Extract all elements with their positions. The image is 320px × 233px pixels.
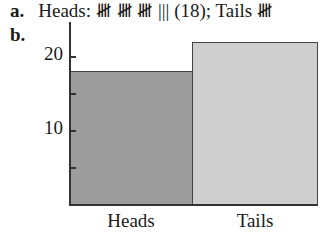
part-b-label: b. (10, 24, 25, 46)
y-tick-5 (70, 167, 76, 169)
y-tick-10 (70, 130, 76, 132)
bar-heads (69, 71, 194, 206)
heads-count: (18); Tails (169, 0, 257, 21)
y-tick-label-20: 20 (33, 43, 63, 65)
tails-tally: 𝍸 (257, 0, 273, 21)
heads-text: Heads: (38, 0, 96, 21)
y-tick-label-10: 10 (33, 117, 63, 139)
bar-tails (192, 42, 318, 206)
y-tick-15 (70, 93, 76, 95)
y-axis (69, 22, 71, 205)
part-a-label: a. (10, 0, 24, 21)
x-label-tails: Tails (220, 210, 290, 232)
part-a-line: a.Heads: 𝍸 𝍸 𝍸 ||| (18); Tails 𝍸 (10, 0, 273, 29)
x-label-heads: Heads (96, 210, 166, 232)
x-axis (69, 204, 318, 206)
y-tick-20 (70, 56, 76, 58)
heads-tally: 𝍸 𝍸 𝍸 ||| (96, 0, 170, 21)
